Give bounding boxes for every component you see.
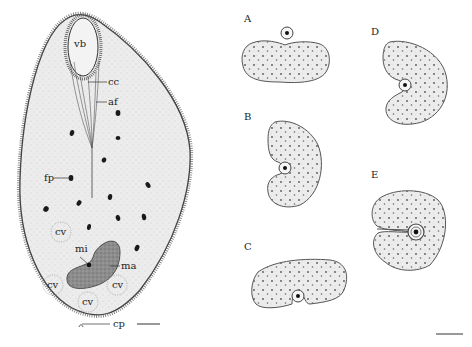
panel-e: E (371, 169, 446, 270)
label-cv-3: cv (112, 279, 124, 290)
label-cv-1: cv (55, 226, 67, 237)
nucleus-d (383, 41, 447, 124)
label-fp: fp (44, 172, 54, 183)
panel-label-a: A (243, 13, 252, 24)
label-cc: cc (108, 76, 120, 87)
panel-d: D (371, 26, 447, 124)
nucleus-a (242, 41, 329, 83)
panel-b: B (244, 111, 321, 207)
panel-c: C (244, 241, 347, 308)
label-ma: ma (121, 260, 136, 271)
cytoproct (79, 325, 83, 327)
nucleus-b (268, 121, 322, 207)
label-cp: cp (113, 318, 125, 329)
panel-label-b: B (244, 111, 251, 122)
panel-label-d: D (371, 26, 379, 37)
ciliate-cell: vb cc af fp cv mi ma cv cv cv cp (20, 15, 190, 329)
label-vb: vb (73, 38, 86, 49)
panel-label-c: C (244, 241, 252, 252)
label-mi: mi (75, 243, 88, 254)
panel-label-e: E (371, 169, 378, 180)
label-cv-4: cv (82, 296, 94, 307)
label-af: af (108, 96, 119, 107)
panel-a: A (242, 13, 329, 83)
figure-canvas: vb cc af fp cv mi ma cv cv cv cp A B C D (0, 0, 472, 347)
label-cv-2: cv (47, 279, 59, 290)
